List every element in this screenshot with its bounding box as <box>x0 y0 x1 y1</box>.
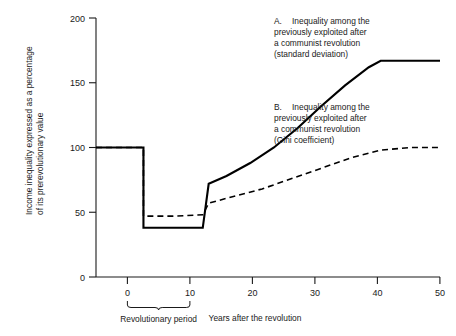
annotation-a-line3: a communist revolution <box>274 38 360 48</box>
annotation-a-line4: (standard deviation) <box>274 49 348 59</box>
annotation-a-line2: previously exploited after <box>274 27 367 37</box>
x-tick-label-50: 50 <box>435 288 445 298</box>
y-axis-title-line2: of its prerevolutionary value <box>35 112 45 215</box>
x-axis-tick-labels: 0 10 20 30 40 50 <box>125 288 445 298</box>
annotation-a-line1: Inequality among the <box>292 16 370 26</box>
y-tick-label-200: 200 <box>70 14 85 24</box>
y-axis: 200 150 100 50 0 <box>70 14 96 283</box>
y-tick-label-0: 0 <box>80 273 85 283</box>
annotation-b-line2: previously exploited after <box>274 113 367 123</box>
y-axis-title-line1: Income inequality expressed as a percent… <box>24 46 34 215</box>
bracket-path <box>127 301 189 310</box>
annotation-b-line4: (Gini coefficient) <box>274 135 335 145</box>
y-tick-label-50: 50 <box>75 208 85 218</box>
chart-svg: 200 150 100 50 0 Income inequality expre… <box>0 0 456 336</box>
annotation-series-a: A. Inequality among the previously explo… <box>274 16 370 59</box>
x-tick-label-0: 0 <box>125 288 130 298</box>
revolutionary-period-bracket: Revolutionary period <box>120 301 197 324</box>
x-tick-label-10: 10 <box>185 288 195 298</box>
series-b-line <box>96 148 440 217</box>
annotation-b-id: B. <box>274 102 282 112</box>
chart-container: 200 150 100 50 0 Income inequality expre… <box>0 0 456 336</box>
x-axis-title: Years after the revolution <box>209 313 302 323</box>
series-b-path <box>96 148 440 217</box>
annotation-b-line1: Inequality among the <box>292 102 370 112</box>
series-a-path <box>96 61 440 228</box>
y-axis-tick-labels: 200 150 100 50 0 <box>70 14 85 283</box>
y-axis-title: Income inequality expressed as a percent… <box>24 46 45 215</box>
annotation-a-id: A. <box>274 16 282 26</box>
annotation-series-b: B. Inequality among the previously explo… <box>274 102 370 145</box>
y-axis-ticks <box>89 18 96 277</box>
y-tick-label-100: 100 <box>70 143 85 153</box>
annotation-b-line3: a communist revolution <box>274 124 360 134</box>
y-tick-label-150: 150 <box>70 78 85 88</box>
x-tick-label-40: 40 <box>372 288 382 298</box>
revolutionary-period-label: Revolutionary period <box>120 314 197 324</box>
series-a-line <box>96 61 440 228</box>
x-tick-label-20: 20 <box>247 288 257 298</box>
x-axis-ticks <box>127 277 440 284</box>
x-tick-label-30: 30 <box>310 288 320 298</box>
